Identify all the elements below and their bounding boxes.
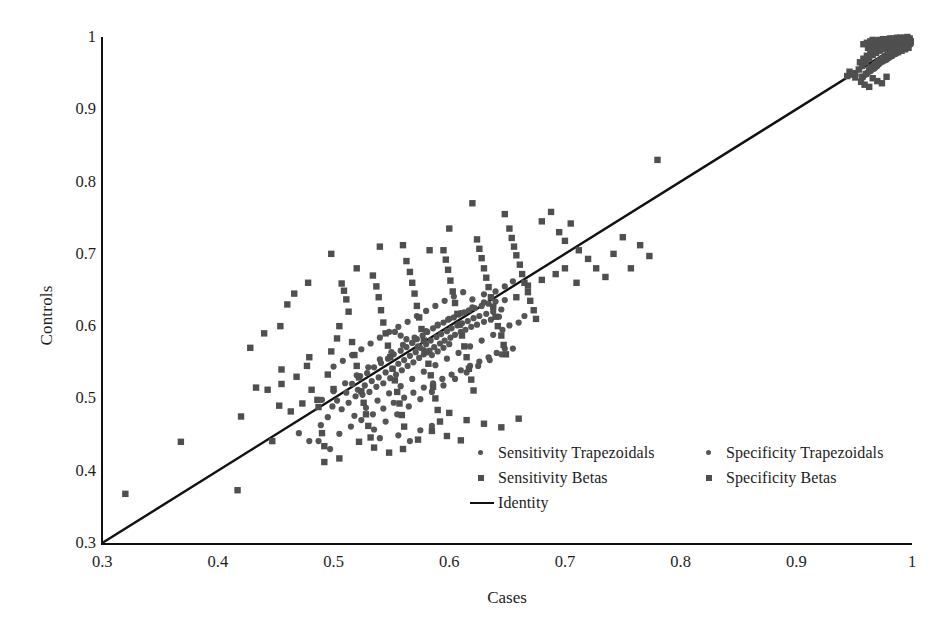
data-point [478,255,484,261]
data-point [866,84,872,90]
data-point [413,349,419,355]
data-point [654,157,660,163]
data-point [371,426,377,432]
legend-entry[interactable]: Specificity Betas [698,465,923,490]
data-point [325,414,331,420]
data-point [377,435,383,441]
data-point [481,299,487,305]
data-point [336,455,342,461]
data-point [377,335,383,341]
legend-marker-shape [706,475,712,481]
data-point [407,269,413,275]
data-point [264,387,270,393]
data-point [374,398,380,404]
legend-entry[interactable]: Identity [470,490,700,515]
data-point [376,374,382,380]
data-point [423,308,429,314]
data-point [442,298,448,304]
data-point [556,229,562,235]
data-point [495,323,501,329]
data-point [428,338,434,344]
data-point [314,397,320,403]
data-point [405,363,411,369]
data-point [340,358,346,364]
legend-circle-marker-icon [698,440,724,465]
legend-entry[interactable]: Sensitivity Trapezoidals [470,440,700,465]
data-point [327,446,333,452]
data-point [446,410,452,416]
data-point [383,369,389,375]
data-point [394,389,400,395]
data-point [437,418,443,424]
data-point [450,288,456,294]
data-point [398,332,404,338]
data-point [462,327,468,333]
data-point [502,283,508,289]
legend-label: Identity [496,494,549,512]
data-point [461,343,467,349]
data-point [122,491,128,497]
legend-line-marker-icon [470,490,496,515]
data-point [637,242,643,248]
data-point [304,363,310,369]
series-specificity-betas [844,34,914,90]
data-point [425,361,431,367]
data-point [409,340,415,346]
data-point [481,421,487,427]
data-point [382,330,388,336]
x-axis-tick-label: 0.3 [72,552,132,572]
data-point [415,436,421,442]
data-point [315,438,321,444]
data-point [392,377,398,383]
data-point [474,236,480,242]
data-point [362,382,368,388]
legend-entry[interactable]: Specificity Trapezoidals [698,440,923,465]
x-axis-title: Cases [102,588,912,608]
data-point [385,342,391,348]
data-point [610,251,616,257]
data-point [367,434,373,440]
data-point [510,345,516,351]
data-point [506,322,512,328]
data-point [328,251,334,257]
data-point [476,246,482,252]
data-point [409,376,415,382]
data-point [465,318,471,324]
data-point [351,352,357,358]
data-point [253,384,259,390]
data-point [481,291,487,297]
data-point [373,384,379,390]
data-point [288,408,294,414]
data-point [378,307,384,313]
data-point [435,322,441,328]
data-point [446,225,452,231]
data-point [371,364,377,370]
data-point [318,422,324,428]
data-point [418,326,424,332]
data-point [455,350,461,356]
data-point [452,376,458,382]
data-point [380,405,386,411]
data-point [446,341,452,347]
legend-label: Sensitivity Betas [496,469,608,487]
data-point [533,316,539,322]
data-point [552,271,558,277]
data-point [429,428,435,434]
data-point [365,364,371,370]
data-point [882,56,888,62]
data-point [445,267,451,273]
data-point [502,297,508,303]
data-point [398,383,404,389]
data-point [456,322,462,328]
data-point [343,390,349,396]
data-point [391,400,397,406]
data-point [343,296,349,302]
data-point [365,423,371,429]
legend-entry[interactable]: Sensitivity Betas [470,465,700,490]
data-point [428,372,434,378]
data-point [474,322,480,328]
data-point [440,382,446,388]
data-point [470,315,476,321]
data-point [517,262,523,268]
data-point [401,423,407,429]
